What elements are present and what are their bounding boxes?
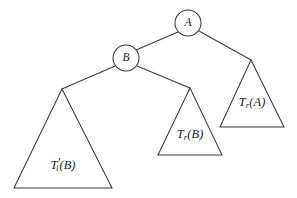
tree-diagram-canvas: T′l(B) Tr(B) Tr(A) A B [0, 0, 297, 198]
edge-group [62, 31, 251, 89]
tree-diagram-svg: T′l(B) Tr(B) Tr(A) A B [0, 0, 297, 198]
subtree-label-tl-prime-b: T′l(B) [50, 155, 75, 173]
edge-b-to-right-subtree [137, 66, 190, 88]
edge-b-to-left-subtree [62, 66, 115, 89]
subtree-label-tr-a: Tr(A) [239, 95, 266, 110]
subtree-label-tr-b: Tr(B) [177, 127, 204, 142]
edge-a-to-b [136, 32, 178, 50]
subtree-triangle-tl-prime-b [14, 89, 112, 188]
subtree-triangle-tr-a [220, 60, 284, 127]
node-label-a: A [183, 16, 192, 28]
node-label-b: B [122, 51, 129, 63]
edge-a-to-right-subtree [199, 31, 251, 60]
subtree-triangle-tr-b [158, 88, 222, 155]
